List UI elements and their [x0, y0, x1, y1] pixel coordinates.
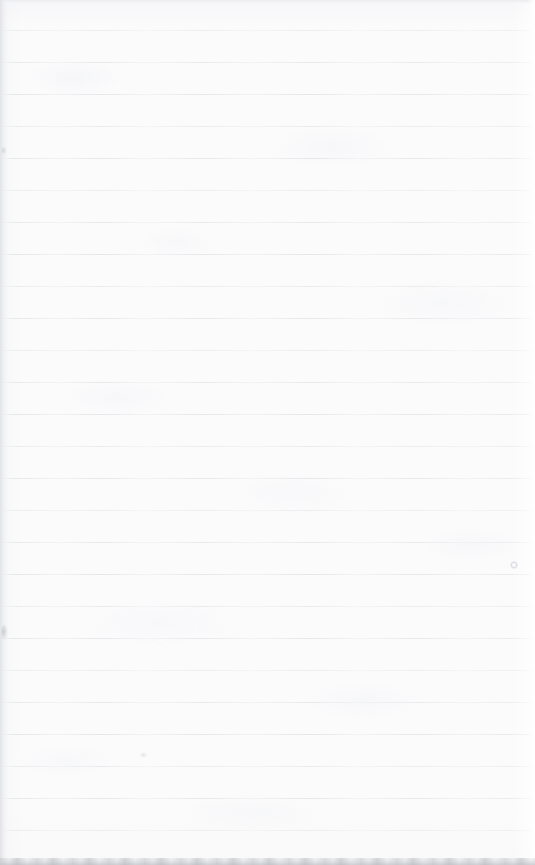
page-content-text [0, 0, 535, 865]
scanned-page [0, 0, 535, 865]
